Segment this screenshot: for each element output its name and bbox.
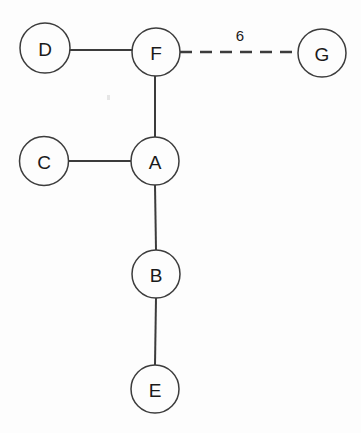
node-c-label: C	[37, 152, 51, 173]
node-f[interactable]: F	[132, 28, 180, 76]
graph-diagram: 6 D F G C A	[0, 0, 361, 433]
node-d[interactable]: D	[20, 23, 70, 73]
node-a[interactable]: A	[131, 137, 179, 185]
node-b[interactable]: B	[132, 250, 180, 298]
diagram-canvas: 6 D F G C A	[0, 0, 361, 433]
node-layer: D F G C A B	[20, 23, 347, 413]
edge-label-f-g: 6	[236, 27, 244, 44]
node-f-label: F	[150, 43, 162, 64]
node-e[interactable]: E	[131, 365, 179, 413]
node-g[interactable]: G	[298, 29, 346, 77]
node-g-label: G	[315, 44, 330, 65]
edge-label-layer: 6	[236, 27, 244, 44]
edge-a-b	[155, 185, 156, 250]
edge-layer	[68, 50, 298, 365]
node-a-label: A	[149, 152, 162, 173]
node-c[interactable]: C	[20, 137, 69, 186]
node-e-label: E	[149, 380, 162, 401]
node-b-label: B	[150, 265, 163, 286]
edge-b-e	[155, 298, 156, 365]
scan-artifact-speck	[107, 95, 110, 100]
node-d-label: D	[38, 39, 52, 60]
